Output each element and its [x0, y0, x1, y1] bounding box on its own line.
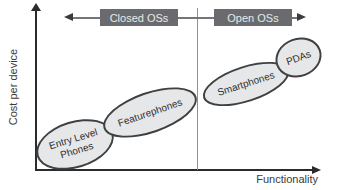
bubble-entry-level-phones-label: Entry Level Phones	[48, 126, 103, 163]
right-arrow-icon	[297, 13, 306, 21]
diagram-canvas: Cost per device Functionality Closed OSs…	[0, 0, 347, 190]
y-axis-arrow-icon	[31, 3, 41, 11]
x-axis-label: Functionality	[256, 173, 318, 185]
closed-oss-box: Closed OSs	[100, 9, 178, 26]
y-axis-label: Cost per device	[7, 27, 19, 147]
open-oss-box: Open OSs	[214, 9, 292, 26]
x-axis-line	[35, 169, 314, 171]
os-divider-line	[197, 8, 198, 170]
bubble-featurephones-label: Featurephones	[116, 96, 183, 129]
left-arrow-icon	[64, 13, 73, 21]
bubble-smartphones-label: Smartphones	[216, 69, 276, 98]
bubble-pdas-label: PDAs	[285, 48, 313, 68]
